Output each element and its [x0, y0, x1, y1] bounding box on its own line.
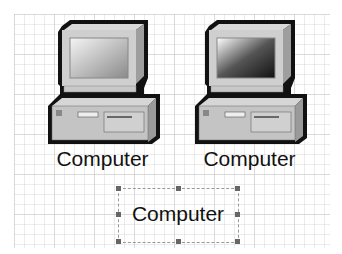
resize-handle-ne[interactable]: [235, 186, 240, 191]
resize-handle-w[interactable]: [116, 212, 121, 217]
selected-text-label[interactable]: Computer: [118, 202, 238, 226]
resize-handle-s[interactable]: [176, 239, 181, 244]
resize-handle-sw[interactable]: [116, 239, 121, 244]
resize-handle-se[interactable]: [235, 239, 240, 244]
resize-handle-nw[interactable]: [116, 186, 121, 191]
resize-handle-n[interactable]: [176, 186, 181, 191]
computer-shape-2[interactable]: [187, 18, 312, 148]
computer-label-1: Computer: [40, 147, 165, 171]
resize-handle-e[interactable]: [235, 212, 240, 217]
computer-label-2: Computer: [187, 147, 312, 171]
computer-shape-1[interactable]: [40, 18, 165, 148]
